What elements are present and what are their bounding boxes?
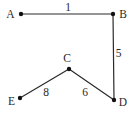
- edge-weight-B-D: 5: [116, 47, 122, 59]
- node-label-B: B: [119, 8, 127, 20]
- node-label-C: C: [63, 52, 71, 64]
- node-dot-D: [112, 98, 116, 102]
- node-dot-B: [111, 12, 115, 16]
- node-dot-C: [67, 67, 71, 71]
- node-dot-E: [18, 96, 22, 100]
- node-label-D: D: [119, 96, 127, 108]
- edge-weight-C-D: 6: [82, 86, 88, 98]
- node-dot-A: [19, 12, 23, 16]
- edge-C-D: [69, 69, 114, 100]
- graph-diagram: 1568ABCDE: [0, 0, 133, 114]
- graph-svg: 1568ABCDE: [0, 0, 133, 114]
- node-label-A: A: [6, 8, 15, 20]
- edge-B-D: [113, 14, 114, 100]
- node-label-E: E: [8, 95, 15, 107]
- edge-weight-C-E: 8: [43, 86, 49, 98]
- edge-weight-A-B: 1: [65, 1, 71, 13]
